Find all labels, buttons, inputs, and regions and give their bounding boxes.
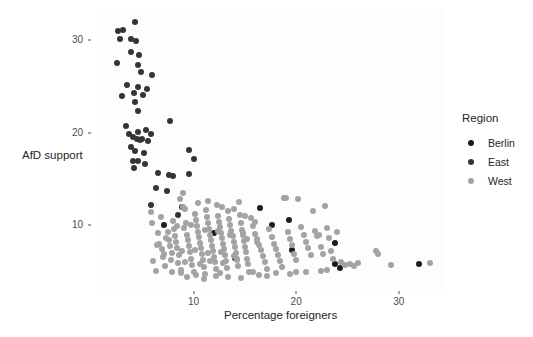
data-point-west: [163, 235, 169, 241]
data-point-east: [135, 129, 141, 135]
data-point-west: [205, 198, 211, 204]
data-point-west: [149, 220, 155, 226]
data-point-west: [224, 265, 230, 271]
data-point-east: [119, 93, 125, 99]
data-point-west: [388, 262, 394, 268]
data-point-west: [220, 260, 226, 266]
data-point-west: [301, 232, 307, 238]
data-point-berlin: [332, 240, 338, 246]
data-point-west: [225, 274, 231, 280]
data-point-west: [199, 251, 205, 257]
x-tick-label: 10: [181, 296, 207, 307]
legend-item-west[interactable]: West: [462, 171, 532, 190]
data-point-berlin: [161, 222, 167, 228]
data-point-east: [132, 19, 138, 25]
x-tick-mark: [193, 291, 194, 294]
data-point-east: [128, 49, 134, 55]
data-point-west: [181, 225, 187, 231]
data-point-west: [168, 257, 174, 263]
data-point-west: [283, 195, 289, 201]
data-point-west: [177, 196, 183, 202]
data-point-east: [114, 60, 120, 66]
legend: Region BerlinEastWest: [462, 112, 532, 190]
data-point-west: [260, 253, 266, 259]
legend-item-east[interactable]: East: [462, 152, 532, 171]
y-tick-mark: [88, 132, 91, 133]
y-tick-label: 10: [57, 219, 83, 230]
data-point-west: [287, 271, 293, 277]
data-point-west: [324, 225, 330, 231]
data-point-west: [264, 266, 270, 272]
data-point-west: [178, 270, 184, 276]
data-point-west: [231, 206, 237, 212]
data-point-west: [320, 251, 326, 257]
data-point-west: [266, 226, 272, 232]
y-tick-label: 30: [57, 34, 83, 45]
data-point-west: [193, 272, 199, 278]
data-point-west: [256, 272, 262, 278]
data-point-west: [245, 261, 251, 267]
data-point-east: [153, 185, 159, 191]
data-point-west: [318, 268, 324, 274]
data-point-east: [170, 173, 176, 179]
data-point-west: [291, 251, 297, 257]
data-point-west: [295, 196, 301, 202]
data-point-west: [279, 264, 285, 270]
y-axis-title: AfD support: [22, 149, 83, 161]
data-point-west: [161, 251, 167, 257]
data-point-east: [145, 138, 151, 144]
data-point-berlin: [257, 205, 263, 211]
data-point-east: [164, 188, 170, 194]
data-point-west: [242, 213, 248, 219]
data-point-west: [203, 207, 209, 213]
data-point-west: [252, 219, 258, 225]
data-point-west: [192, 247, 198, 253]
data-point-west: [308, 252, 314, 258]
data-point-east: [132, 99, 138, 105]
data-point-east: [131, 90, 137, 96]
data-point-east: [142, 161, 148, 167]
data-point-west: [189, 262, 195, 268]
data-point-west: [244, 236, 250, 242]
data-point-west: [322, 203, 328, 209]
data-point-west: [218, 249, 224, 255]
data-point-east: [186, 171, 192, 177]
data-point-east: [186, 147, 192, 153]
data-point-west: [303, 239, 309, 245]
data-point-east: [148, 131, 154, 137]
data-point-east: [133, 38, 139, 44]
data-point-east: [149, 72, 155, 78]
scatter-plot-figure: 102030 102030 AfD support Percentage for…: [0, 0, 533, 337]
data-point-east: [131, 165, 137, 171]
data-point-west: [273, 270, 279, 276]
data-point-west: [148, 209, 154, 215]
data-point-west: [153, 268, 159, 274]
data-point-west: [236, 199, 242, 205]
data-point-west: [318, 244, 324, 250]
data-point-west: [293, 257, 299, 263]
data-point-west: [150, 258, 156, 264]
data-point-west: [310, 208, 316, 214]
data-point-west: [326, 235, 332, 241]
data-point-west: [201, 276, 207, 282]
data-point-east: [132, 148, 138, 154]
data-point-west: [298, 224, 304, 230]
x-tick-mark: [296, 291, 297, 294]
data-point-west: [250, 269, 256, 275]
legend-item-berlin[interactable]: Berlin: [462, 133, 532, 152]
legend-label: East: [488, 156, 509, 168]
legend-key: [462, 178, 479, 184]
data-point-west: [158, 214, 164, 220]
data-point-east: [139, 136, 145, 142]
data-point-west: [188, 256, 194, 262]
data-point-west: [182, 259, 188, 265]
data-point-east: [135, 108, 141, 114]
data-point-west: [175, 260, 181, 266]
data-point-west: [215, 228, 221, 234]
data-point-berlin: [286, 217, 292, 223]
data-point-east: [135, 62, 141, 68]
data-point-east: [124, 82, 130, 88]
data-point-west: [289, 242, 295, 248]
data-point-west: [243, 249, 249, 255]
legend-label: West: [488, 175, 512, 187]
